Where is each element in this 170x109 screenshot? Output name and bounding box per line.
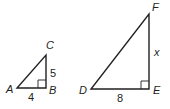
vertex-label-d: D <box>79 84 87 96</box>
side-label-ab: 4 <box>28 91 34 103</box>
vertex-label-b: B <box>49 84 56 96</box>
side-label-bc: 5 <box>50 67 56 79</box>
vertex-label-c: C <box>46 39 54 51</box>
side-label-ef: x <box>153 46 160 58</box>
vertex-label-e: E <box>153 84 161 96</box>
triangle-def: D E F 8 x <box>79 1 161 104</box>
triangle-def-outline <box>91 14 149 89</box>
triangle-abc: A B C 4 5 <box>5 39 56 103</box>
right-angle-marker-e <box>141 81 149 89</box>
similar-triangles-diagram: A B C 4 5 D E F 8 x <box>0 0 170 109</box>
vertex-label-f: F <box>152 1 160 13</box>
right-angle-marker-b <box>38 80 46 88</box>
triangle-abc-outline <box>17 55 46 88</box>
vertex-label-a: A <box>5 83 13 95</box>
side-label-de: 8 <box>117 92 123 104</box>
